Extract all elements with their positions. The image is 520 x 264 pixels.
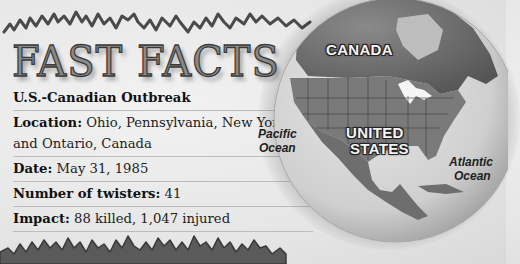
label-atlantic: Atlantic — [449, 156, 493, 168]
fact-label: Location: — [13, 115, 82, 130]
label-united: UNITED — [346, 125, 404, 140]
page-title: FAST FACTS — [12, 37, 280, 85]
fact-label: Impact: — [13, 211, 70, 226]
fact-label: Number of twisters: — [13, 186, 160, 201]
fact-value: May 31, 1985 — [52, 161, 148, 176]
scribble-border-bottom-icon — [0, 228, 506, 264]
fact-value: 41 — [160, 186, 181, 201]
label-pacific-ocean: Ocean — [259, 142, 296, 154]
label-atlantic-ocean: Ocean — [454, 170, 491, 182]
north-america-globe-map: CANADA UNITED STATES Pacific Ocean Atlan… — [268, 0, 508, 256]
label-canada: CANADA — [326, 42, 393, 57]
fact-value: 88 killed, 1,047 injured — [70, 211, 230, 226]
label-states: STATES — [350, 141, 409, 156]
fact-label: Date: — [13, 161, 52, 176]
label-pacific: Pacific — [258, 128, 297, 140]
